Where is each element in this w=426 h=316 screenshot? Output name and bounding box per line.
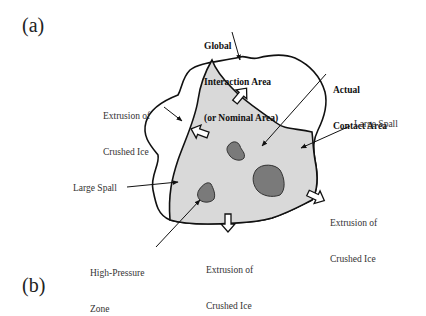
leader-extrusion-topleft: [164, 107, 182, 121]
label-extrusion-right: Extrusion of Crushed Ice: [330, 193, 377, 277]
label-large-spall-right: Large Spall: [354, 118, 398, 130]
label-global-area: Global Interaction Area (or Nominal Area…: [204, 16, 278, 136]
label-actual-contact: Actual Contact Area: [333, 60, 387, 144]
label-high-pressure-zone: High-Pressure Zone: [90, 243, 144, 316]
label-extrusion-bottom: Extrusion of Crushed Ice: [206, 240, 253, 316]
label-large-spall-left: Large Spall: [73, 182, 117, 194]
label-extrusion-topleft: Extrusion of Crushed Ice: [103, 86, 150, 170]
